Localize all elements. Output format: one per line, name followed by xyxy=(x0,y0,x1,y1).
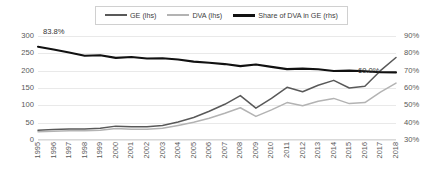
share-start-value: 83.8% xyxy=(43,28,65,36)
x-axis-tick: 2011 xyxy=(283,142,290,158)
legend-label-dva: DVA (lhs) xyxy=(192,12,222,19)
y-axis-left-tick: 100 xyxy=(21,102,34,110)
series-line-share xyxy=(38,47,396,73)
y-axis-right-tick: 60% xyxy=(404,84,419,92)
legend-item-ge: GE (lhs) xyxy=(105,12,156,19)
legend-swatch-ge-icon xyxy=(105,14,127,16)
y-axis-left-tick: 200 xyxy=(21,67,34,75)
y-axis-left: 300250200150100500 xyxy=(0,36,34,140)
x-axis-tick: 2003 xyxy=(159,142,166,158)
y-axis-right: 90%80%70%60%50%40%30% xyxy=(400,36,438,140)
x-axis-tick: 2012 xyxy=(299,142,306,158)
series-layer xyxy=(38,36,396,140)
x-axis-tick: 2010 xyxy=(267,142,274,158)
x-axis-tick: 2017 xyxy=(376,142,383,158)
x-axis-tick: 2004 xyxy=(174,142,181,158)
share-end-value: 69.0% xyxy=(358,67,380,75)
gridline xyxy=(38,140,396,141)
y-axis-right-tick: 80% xyxy=(404,50,419,58)
y-axis-right-tick: 40% xyxy=(404,119,419,127)
y-axis-right-tick: 50% xyxy=(404,102,419,110)
x-axis-tick: 1998 xyxy=(81,142,88,158)
y-axis-right-tick: 90% xyxy=(404,32,419,40)
y-axis-left-tick: 250 xyxy=(21,50,34,58)
x-axis-tick: 1996 xyxy=(50,142,57,158)
y-axis-left-tick: 300 xyxy=(21,32,34,40)
legend-label-share: Share of DVA in GE (rhs) xyxy=(258,12,338,19)
chart-legend: GE (lhs) DVA (lhs) Share of DVA in GE (r… xyxy=(95,6,348,25)
legend-swatch-share-icon xyxy=(233,14,255,17)
x-axis-tick: 2000 xyxy=(112,142,119,158)
x-axis-tick: 1995 xyxy=(34,142,41,158)
y-axis-left-tick: 150 xyxy=(21,84,34,92)
x-axis-tick: 2005 xyxy=(190,142,197,158)
x-axis-tick: 1999 xyxy=(96,142,103,158)
x-axis: 1995199619971998199920002001200220032004… xyxy=(38,142,396,182)
y-axis-left-tick: 50 xyxy=(26,119,34,127)
x-axis-tick: 2006 xyxy=(205,142,212,158)
x-axis-tick: 2001 xyxy=(127,142,134,158)
chart-container: GE (lhs) DVA (lhs) Share of DVA in GE (r… xyxy=(0,0,440,183)
y-axis-right-tick: 30% xyxy=(404,136,419,144)
x-axis-tick: 2016 xyxy=(361,142,368,158)
legend-label-ge: GE (lhs) xyxy=(130,12,156,19)
legend-swatch-dva-icon xyxy=(167,14,189,16)
x-axis-tick: 2009 xyxy=(252,142,259,158)
x-axis-tick: 2002 xyxy=(143,142,150,158)
series-line-ge xyxy=(38,57,396,130)
x-axis-tick: 1997 xyxy=(65,142,72,158)
x-axis-tick: 2007 xyxy=(221,142,228,158)
x-axis-tick: 2015 xyxy=(345,142,352,158)
legend-item-share: Share of DVA in GE (rhs) xyxy=(233,12,338,19)
legend-item-dva: DVA (lhs) xyxy=(167,12,222,19)
plot-area xyxy=(38,36,396,140)
x-axis-tick: 2013 xyxy=(314,142,321,158)
x-axis-tick: 2018 xyxy=(392,142,399,158)
x-axis-tick: 2014 xyxy=(330,142,337,158)
y-axis-right-tick: 70% xyxy=(404,67,419,75)
x-axis-tick: 2008 xyxy=(236,142,243,158)
